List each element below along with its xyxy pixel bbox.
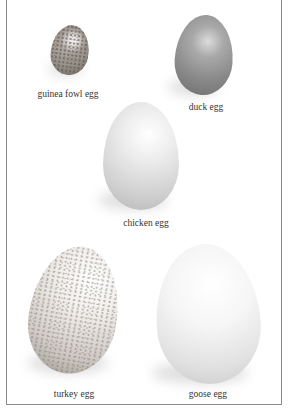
goose-egg-label: goose egg — [189, 389, 227, 399]
turkey-egg-label: turkey egg — [54, 389, 94, 399]
guinea-fowl-egg-label: guinea fowl egg — [37, 89, 98, 99]
chicken-egg-label: chicken egg — [123, 218, 169, 228]
duck-egg-label: duck egg — [189, 102, 224, 112]
